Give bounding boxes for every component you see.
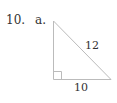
triangle-outline [54, 21, 112, 80]
right-triangle-figure [0, 0, 117, 103]
base-label: 10 [74, 81, 88, 94]
hypotenuse-label: 12 [85, 39, 99, 52]
right-angle-marker [54, 72, 62, 80]
